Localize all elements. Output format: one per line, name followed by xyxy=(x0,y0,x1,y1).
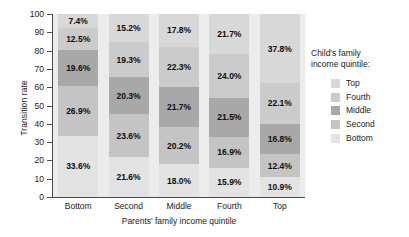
bar-group-top[interactable]: 10.9%12.4%16.8%22.1%37.8% xyxy=(260,14,300,197)
bar-segment-top[interactable]: 7.4% xyxy=(58,14,98,28)
legend-swatch-icon xyxy=(331,134,340,143)
y-axis-tick-label: 70 xyxy=(18,65,44,73)
legend-item-label: Second xyxy=(346,120,375,129)
legend-title-line-2: income quintile: xyxy=(311,59,407,70)
bar-segment-value-label: 22.3% xyxy=(167,62,191,72)
bar-group-bottom[interactable]: 33.6%26.9%19.6%12.5%7.4% xyxy=(58,14,98,197)
bar-segment-second[interactable]: 20.2% xyxy=(159,127,199,164)
legend-swatch-icon xyxy=(331,79,340,88)
legend-item-label: Fourth xyxy=(346,93,371,102)
bar-segment-second[interactable]: 26.9% xyxy=(58,86,98,135)
x-axis-tick-label-fourth: Fourth xyxy=(201,201,257,211)
bar-segment-value-label: 22.1% xyxy=(268,98,292,108)
bar-group-second[interactable]: 21.6%23.6%20.3%19.3%15.2% xyxy=(109,14,149,197)
bar-segment-value-label: 21.5% xyxy=(217,112,241,122)
bar-segment-bottom[interactable]: 15.9% xyxy=(209,168,249,197)
bar-segment-top[interactable]: 21.7% xyxy=(209,14,249,54)
bar-segment-middle[interactable]: 20.3% xyxy=(109,77,149,114)
legend-item-fourth[interactable]: Fourth xyxy=(311,91,407,105)
x-axis-title: Parents' family income quintile xyxy=(53,216,305,226)
bar-segment-value-label: 12.4% xyxy=(268,161,292,171)
bar-segment-value-label: 37.8% xyxy=(268,44,292,54)
y-axis-tick-label: 10 xyxy=(18,175,44,183)
bar-segment-value-label: 19.3% xyxy=(117,55,141,65)
bar-segment-fourth[interactable]: 19.3% xyxy=(109,42,149,77)
legend-item-middle[interactable]: Middle xyxy=(311,104,407,118)
bar-segment-second[interactable]: 12.4% xyxy=(260,154,300,177)
plot-area: 33.6%26.9%19.6%12.5%7.4%21.6%23.6%20.3%1… xyxy=(53,14,305,197)
bar-segment-value-label: 19.6% xyxy=(66,63,90,73)
legend: Child's family income quintile: TopFourt… xyxy=(311,48,407,145)
y-axis-tick-label: 0 xyxy=(18,193,44,201)
x-axis-tick-label-middle: Middle xyxy=(151,201,207,211)
x-axis-tick-label-top: Top xyxy=(252,201,308,211)
bar-segment-bottom[interactable]: 10.9% xyxy=(260,177,300,197)
legend-title: Child's family income quintile: xyxy=(311,48,407,70)
bar-segment-top[interactable]: 37.8% xyxy=(260,14,300,83)
y-axis-tick-label: 100 xyxy=(18,10,44,18)
legend-title-line-1: Child's family xyxy=(311,48,407,59)
bar-segment-value-label: 17.8% xyxy=(167,25,191,35)
bar-segment-value-label: 7.4% xyxy=(69,16,88,26)
bar-segment-value-label: 21.6% xyxy=(117,172,141,182)
bar-segment-value-label: 26.9% xyxy=(66,106,90,116)
bar-segment-bottom[interactable]: 18.0% xyxy=(159,164,199,197)
bar-segment-value-label: 21.7% xyxy=(167,102,191,112)
bar-segment-value-label: 16.8% xyxy=(268,134,292,144)
bar-group-middle[interactable]: 18.0%20.2%21.7%22.3%17.8% xyxy=(159,14,199,197)
bar-segment-second[interactable]: 16.9% xyxy=(209,137,249,168)
legend-item-label: Bottom xyxy=(346,134,373,143)
bar-segment-middle[interactable]: 16.8% xyxy=(260,124,300,155)
bar-segment-value-label: 15.9% xyxy=(217,177,241,187)
legend-swatch-icon xyxy=(331,120,340,129)
legend-swatch-icon xyxy=(331,93,340,102)
bar-segment-fourth[interactable]: 22.1% xyxy=(260,83,300,123)
bar-segment-middle[interactable]: 21.5% xyxy=(209,98,249,137)
x-axis-tick-label-bottom: Bottom xyxy=(50,201,106,211)
legend-entries: TopFourthMiddleSecondBottom xyxy=(311,77,407,145)
bar-group-fourth[interactable]: 15.9%16.9%21.5%24.0%21.7% xyxy=(209,14,249,197)
y-axis-tick-label: 90 xyxy=(18,28,44,36)
bar-segment-middle[interactable]: 19.6% xyxy=(58,50,98,86)
x-axis-tick-labels: BottomSecondMiddleFourthTop xyxy=(53,201,305,215)
y-axis-tick-label: 40 xyxy=(18,120,44,128)
legend-item-label: Top xyxy=(346,79,360,88)
legend-item-second[interactable]: Second xyxy=(311,118,407,132)
y-axis-tick-label: 30 xyxy=(18,138,44,146)
bar-segment-second[interactable]: 23.6% xyxy=(109,114,149,157)
x-axis-line xyxy=(52,197,305,198)
bar-segment-middle[interactable]: 21.7% xyxy=(159,87,199,127)
bar-segment-top[interactable]: 15.2% xyxy=(109,14,149,42)
bar-segment-bottom[interactable]: 33.6% xyxy=(58,136,98,197)
bar-segment-value-label: 18.0% xyxy=(167,176,191,186)
bar-segment-value-label: 24.0% xyxy=(217,71,241,81)
bar-segment-value-label: 33.6% xyxy=(66,161,90,171)
y-axis-tick-label: 20 xyxy=(18,156,44,164)
y-axis-tick-labels: 1009080706050403020100 xyxy=(18,14,44,197)
bar-segment-value-label: 15.2% xyxy=(117,23,141,33)
legend-item-bottom[interactable]: Bottom xyxy=(311,131,407,145)
legend-item-top[interactable]: Top xyxy=(311,77,407,91)
y-axis-tick-label: 80 xyxy=(18,47,44,55)
bar-segment-value-label: 20.3% xyxy=(117,91,141,101)
bar-segment-value-label: 16.9% xyxy=(217,147,241,157)
legend-swatch-icon xyxy=(331,106,340,115)
bar-segment-value-label: 21.7% xyxy=(217,29,241,39)
bar-segment-value-label: 10.9% xyxy=(268,182,292,192)
bar-segment-fourth[interactable]: 22.3% xyxy=(159,47,199,88)
y-axis-tick-label: 60 xyxy=(18,83,44,91)
bar-segment-top[interactable]: 17.8% xyxy=(159,14,199,47)
stacked-bar-chart: Transition rate 1009080706050403020100 3… xyxy=(0,0,409,237)
x-axis-tick-label-second: Second xyxy=(101,201,157,211)
y-axis-tick-label: 50 xyxy=(18,102,44,110)
bar-segment-fourth[interactable]: 12.5% xyxy=(58,28,98,51)
bar-segment-value-label: 12.5% xyxy=(66,34,90,44)
bar-segment-value-label: 20.2% xyxy=(167,141,191,151)
legend-item-label: Middle xyxy=(346,106,371,115)
bar-segment-bottom[interactable]: 21.6% xyxy=(109,157,149,197)
bar-segment-fourth[interactable]: 24.0% xyxy=(209,54,249,98)
bar-segment-value-label: 23.6% xyxy=(117,131,141,141)
